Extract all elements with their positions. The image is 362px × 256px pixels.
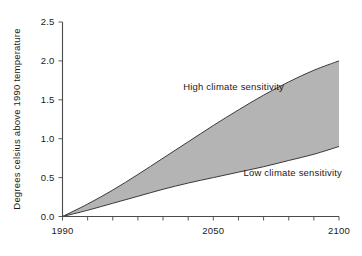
x-axis-tick-label: 2100 — [328, 225, 350, 236]
x-axis-tick-label: 2050 — [202, 225, 224, 236]
y-axis-tick-label: 1.5 — [41, 94, 55, 105]
chart-svg: 0.00.51.01.52.02.5 199020502100 Degrees … — [0, 0, 362, 256]
annotation-low-climate-sensitivity: Low climate sensitivity — [243, 167, 342, 178]
chart-figure: 0.00.51.01.52.02.5 199020502100 Degrees … — [0, 0, 362, 256]
y-axis-tick-label: 2.0 — [41, 55, 55, 66]
annotation-high-climate-sensitivity: High climate sensitivity — [183, 81, 284, 92]
x-axis-tick-label: 1990 — [52, 225, 74, 236]
y-axis-tick-label: 0.5 — [41, 172, 55, 183]
y-axis-tick-label: 2.5 — [41, 16, 55, 27]
y-axis-title: Degrees celsius above 1990 temperature — [11, 28, 22, 209]
y-axis-tick-label: 1.0 — [41, 133, 55, 144]
y-axis-tick-label: 0.0 — [41, 211, 55, 222]
